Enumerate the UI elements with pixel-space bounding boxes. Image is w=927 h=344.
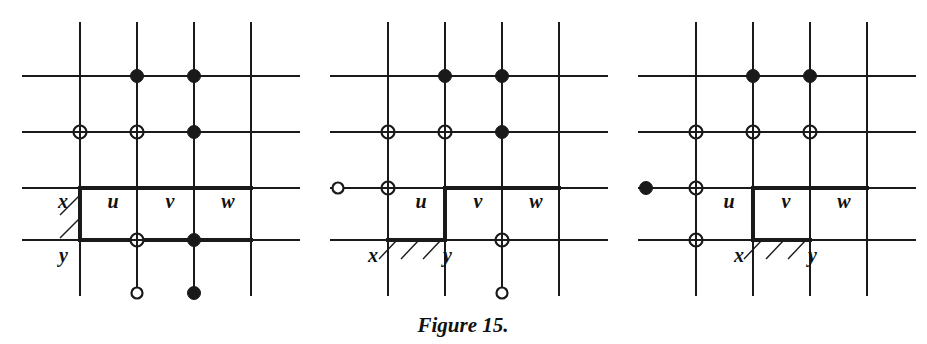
marker-filled bbox=[496, 126, 509, 139]
marker-filled bbox=[496, 70, 509, 83]
marker-hollow-terminal bbox=[333, 183, 344, 194]
label-x: x bbox=[57, 190, 68, 212]
label-u: u bbox=[415, 190, 426, 212]
label-v: v bbox=[474, 190, 484, 212]
label-v: v bbox=[166, 190, 176, 212]
marker-filled-terminal bbox=[640, 182, 653, 195]
label-x: x bbox=[367, 244, 378, 266]
marker-filled bbox=[188, 70, 201, 83]
marker-filled-terminal bbox=[188, 287, 201, 300]
figure-15-drawing: xyuvwuvwxyuvwxyFigure 15. bbox=[0, 0, 927, 344]
marker-filled bbox=[131, 70, 144, 83]
label-u: u bbox=[107, 190, 118, 212]
label-u: u bbox=[723, 190, 734, 212]
figure-caption: Figure 15. bbox=[416, 313, 508, 337]
label-y: y bbox=[441, 244, 452, 267]
marker-filled bbox=[747, 70, 760, 83]
marker-filled bbox=[188, 234, 201, 247]
label-w: w bbox=[837, 190, 851, 212]
marker-filled bbox=[439, 70, 452, 83]
figure-15-container: xyuvwuvwxyuvwxyFigure 15. bbox=[0, 0, 927, 344]
marker-filled bbox=[188, 126, 201, 139]
label-y: y bbox=[57, 244, 68, 267]
label-x: x bbox=[733, 244, 744, 266]
label-y: y bbox=[806, 244, 817, 267]
marker-hollow-terminal bbox=[497, 288, 508, 299]
label-v: v bbox=[782, 190, 792, 212]
label-w: w bbox=[529, 190, 543, 212]
label-w: w bbox=[221, 190, 235, 212]
marker-filled bbox=[804, 70, 817, 83]
marker-hollow-terminal bbox=[132, 288, 143, 299]
